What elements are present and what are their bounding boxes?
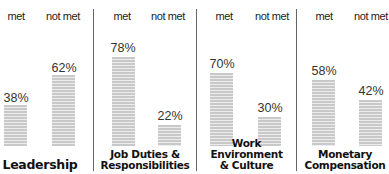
met-value: 58%	[306, 64, 342, 78]
not-met-value: 62%	[46, 61, 82, 75]
met-label: met	[202, 10, 246, 22]
not-met-bar	[52, 75, 75, 146]
category-line-2: Compensation	[299, 160, 389, 171]
not-met-value: 42%	[353, 84, 389, 98]
category-line-2: & Culture	[197, 160, 296, 171]
met-bar	[4, 105, 27, 146]
met-bar	[312, 80, 335, 146]
not-met-bar	[158, 125, 181, 146]
panel-leadership: met not met 38% 62% Leadership	[0, 0, 93, 174]
met-value: 78%	[105, 41, 141, 55]
not-met-bar	[359, 100, 382, 146]
met-bar	[210, 73, 233, 146]
category-line-2: Responsibilities	[96, 160, 194, 171]
category-label: Work Environment & Culture	[197, 138, 296, 171]
panel-job-duties: met not met 78% 22% Job Duties & Respons…	[94, 0, 196, 174]
panel-work-environment: met not met 70% 30% Work Environment & C…	[197, 0, 296, 174]
category-line-1: Leadership	[2, 157, 77, 172]
category-line-1: Work Environment	[197, 138, 296, 160]
met-label: met	[302, 10, 346, 22]
met-label: met	[0, 10, 38, 22]
category-label: Monetary Compensation	[299, 149, 389, 171]
category-label: Leadership	[0, 159, 80, 170]
panel-monetary-compensation: met not met 58% 42% Monetary Compensatio…	[297, 0, 389, 174]
not-met-label: not met	[349, 10, 389, 22]
not-met-label: not met	[250, 10, 294, 22]
met-value: 70%	[204, 57, 240, 71]
not-met-value: 30%	[252, 101, 288, 115]
category-label: Job Duties & Responsibilities	[96, 149, 194, 171]
met-bar	[112, 57, 135, 146]
met-value: 38%	[0, 91, 34, 105]
not-met-label: not met	[146, 10, 190, 22]
not-met-value: 22%	[152, 109, 188, 123]
not-met-label: not met	[41, 10, 85, 22]
met-label: met	[100, 10, 144, 22]
